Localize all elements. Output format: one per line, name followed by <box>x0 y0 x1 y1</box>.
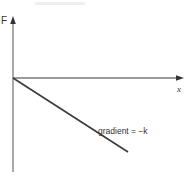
x-axis-arrow-icon <box>176 75 184 81</box>
gradient-annotation: gradient = −k <box>98 126 148 136</box>
force-graph: F x gradient = −k <box>0 0 190 176</box>
plot-line-negative-gradient <box>13 78 128 152</box>
y-axis-arrow-icon <box>10 16 16 24</box>
y-axis-label: F <box>1 15 7 26</box>
x-axis-label: x <box>176 84 181 94</box>
cutoff-text-remnant <box>35 2 85 5</box>
